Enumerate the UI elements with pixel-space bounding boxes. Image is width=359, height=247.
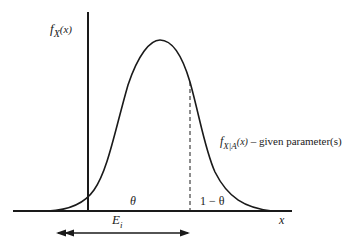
x-axis-label: x — [278, 213, 285, 227]
interval-arrow-head-right — [180, 230, 190, 237]
y-axis-label: fX(x) — [50, 21, 72, 39]
one-minus-theta-label: 1 − θ — [200, 194, 225, 208]
density-curve — [48, 40, 272, 211]
theta-label: θ — [130, 194, 136, 208]
probability-density-diagram: fX(x) fX|A(x) – given parameter(s) θ 1 −… — [0, 0, 359, 247]
interval-label: Ei — [111, 212, 123, 230]
curve-label: fX|A(x) – given parameter(s) — [220, 134, 342, 151]
